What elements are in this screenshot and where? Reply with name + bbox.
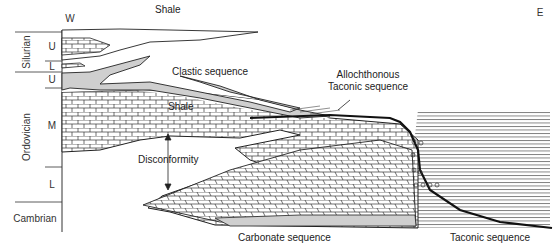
silurian-upper: U (48, 41, 55, 52)
taconic-sequence-body (412, 110, 550, 228)
label-allochthonous-2: Taconic sequence (328, 81, 408, 92)
label-carbonate-sequence: Carbonate sequence (238, 232, 331, 243)
silurian-lower: L (49, 61, 55, 72)
label-shale-middle: Shale (168, 101, 194, 112)
label-shale-upper: Shale (155, 4, 181, 15)
label-clastic-sequence: Clastic sequence (172, 66, 249, 77)
period-cambrian: Cambrian (13, 213, 56, 224)
label-allochthonous-1: Allochthonous (337, 69, 400, 80)
ordovician-lower: L (49, 179, 55, 190)
label-disconformity: Disconformity (138, 154, 199, 165)
ordovician-upper: U (48, 74, 55, 85)
label-taconic-sequence: Taconic sequence (450, 232, 530, 243)
cross-section-diagram: Silurian U L Ordovician U M L Cambrian W… (0, 0, 555, 252)
silurian-carbonate-lower (62, 63, 85, 68)
east-label: E (537, 7, 544, 18)
carbonate-basal-band (215, 215, 416, 226)
period-silurian: Silurian (21, 35, 32, 68)
stratigraphic-column: Silurian U L Ordovician U M L Cambrian (13, 30, 62, 232)
period-ordovician: Ordovician (21, 113, 32, 161)
west-label: W (65, 13, 75, 24)
ordovician-middle: M (48, 120, 56, 131)
allochthonous-pointer (338, 100, 350, 110)
